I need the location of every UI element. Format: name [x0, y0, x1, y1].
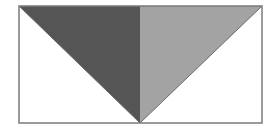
geometric-diagram — [0, 0, 278, 131]
